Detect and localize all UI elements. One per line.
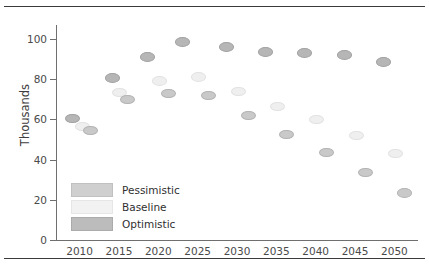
data-point-baseline-2020 xyxy=(152,76,167,86)
chart-legend: PessimisticBaselineOptimistic xyxy=(71,182,221,233)
legend-label-baseline: Baseline xyxy=(122,201,167,214)
scatter-chart: Thousands 020406080100 20102015202020252… xyxy=(0,12,429,256)
x-axis-line xyxy=(56,240,418,241)
data-point-optimistic-2043.5 xyxy=(337,50,352,60)
data-point-optimistic-2033.5 xyxy=(258,47,273,57)
x-tick-label-2025: 2025 xyxy=(184,245,211,258)
x-tick-label-2035: 2035 xyxy=(263,245,290,258)
x-tick-label-2015: 2015 xyxy=(106,245,133,258)
data-point-optimistic-2048.5 xyxy=(376,57,391,67)
legend-swatch-baseline xyxy=(71,200,113,214)
y-tick-label: 60 xyxy=(34,113,47,126)
data-point-pessimistic-2031.3 xyxy=(241,111,256,121)
legend-swatch-optimistic xyxy=(71,217,113,231)
x-tick-label-2020: 2020 xyxy=(145,245,172,258)
y-tick-label: 0 xyxy=(40,234,47,247)
data-point-optimistic-2014 xyxy=(105,73,120,83)
data-point-optimistic-2028.5 xyxy=(219,42,234,52)
data-point-optimistic-2023 xyxy=(175,37,190,47)
data-point-optimistic-2018.5 xyxy=(140,52,155,62)
y-axis-title: Thousands xyxy=(18,60,32,170)
legend-label-optimistic: Optimistic xyxy=(122,218,175,231)
x-tick-label-2045: 2045 xyxy=(342,245,369,258)
legend-item-baseline[interactable]: Baseline xyxy=(71,199,221,215)
data-point-baseline-2035 xyxy=(270,102,285,112)
legend-item-pessimistic[interactable]: Pessimistic xyxy=(71,182,221,198)
data-point-pessimistic-2021.2 xyxy=(161,89,176,99)
y-tick-label: 80 xyxy=(34,73,47,86)
y-tick-label: 100 xyxy=(27,33,47,46)
page-rule-top xyxy=(4,6,425,7)
data-point-pessimistic-2041.2 xyxy=(319,148,334,158)
page-rule-bottom xyxy=(4,258,425,259)
x-tick-label-2050: 2050 xyxy=(381,245,408,258)
y-tick-0: 0 xyxy=(50,240,56,241)
data-point-pessimistic-2051.2 xyxy=(397,188,412,198)
data-point-baseline-2045 xyxy=(349,131,364,141)
legend-item-optimistic[interactable]: Optimistic xyxy=(71,216,221,232)
x-tick-label-2010: 2010 xyxy=(66,245,93,258)
data-point-baseline-2030 xyxy=(231,87,246,97)
y-tick-label: 20 xyxy=(34,194,47,207)
x-tick-label-2040: 2040 xyxy=(302,245,329,258)
x-tick-label-2030: 2030 xyxy=(224,245,251,258)
data-point-optimistic-2038.5 xyxy=(297,48,312,58)
data-point-baseline-2025 xyxy=(191,72,206,82)
y-tick-label: 40 xyxy=(34,154,47,167)
figure-frame: Thousands 020406080100 20102015202020252… xyxy=(0,0,429,267)
legend-label-pessimistic: Pessimistic xyxy=(122,184,180,197)
legend-swatch-pessimistic xyxy=(71,183,113,197)
